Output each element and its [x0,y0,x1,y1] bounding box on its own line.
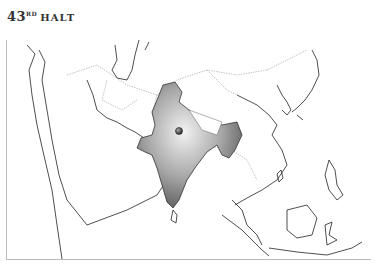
india-highlight [137,82,242,208]
asia-map [7,40,371,259]
stop-title: 43RDHALT [7,9,75,24]
map-frame [6,40,371,260]
location-marker-icon [176,128,183,135]
stop-number: 43 [7,9,26,24]
stop-ordinal: RD [26,10,37,17]
stop-word: HALT [40,12,75,23]
